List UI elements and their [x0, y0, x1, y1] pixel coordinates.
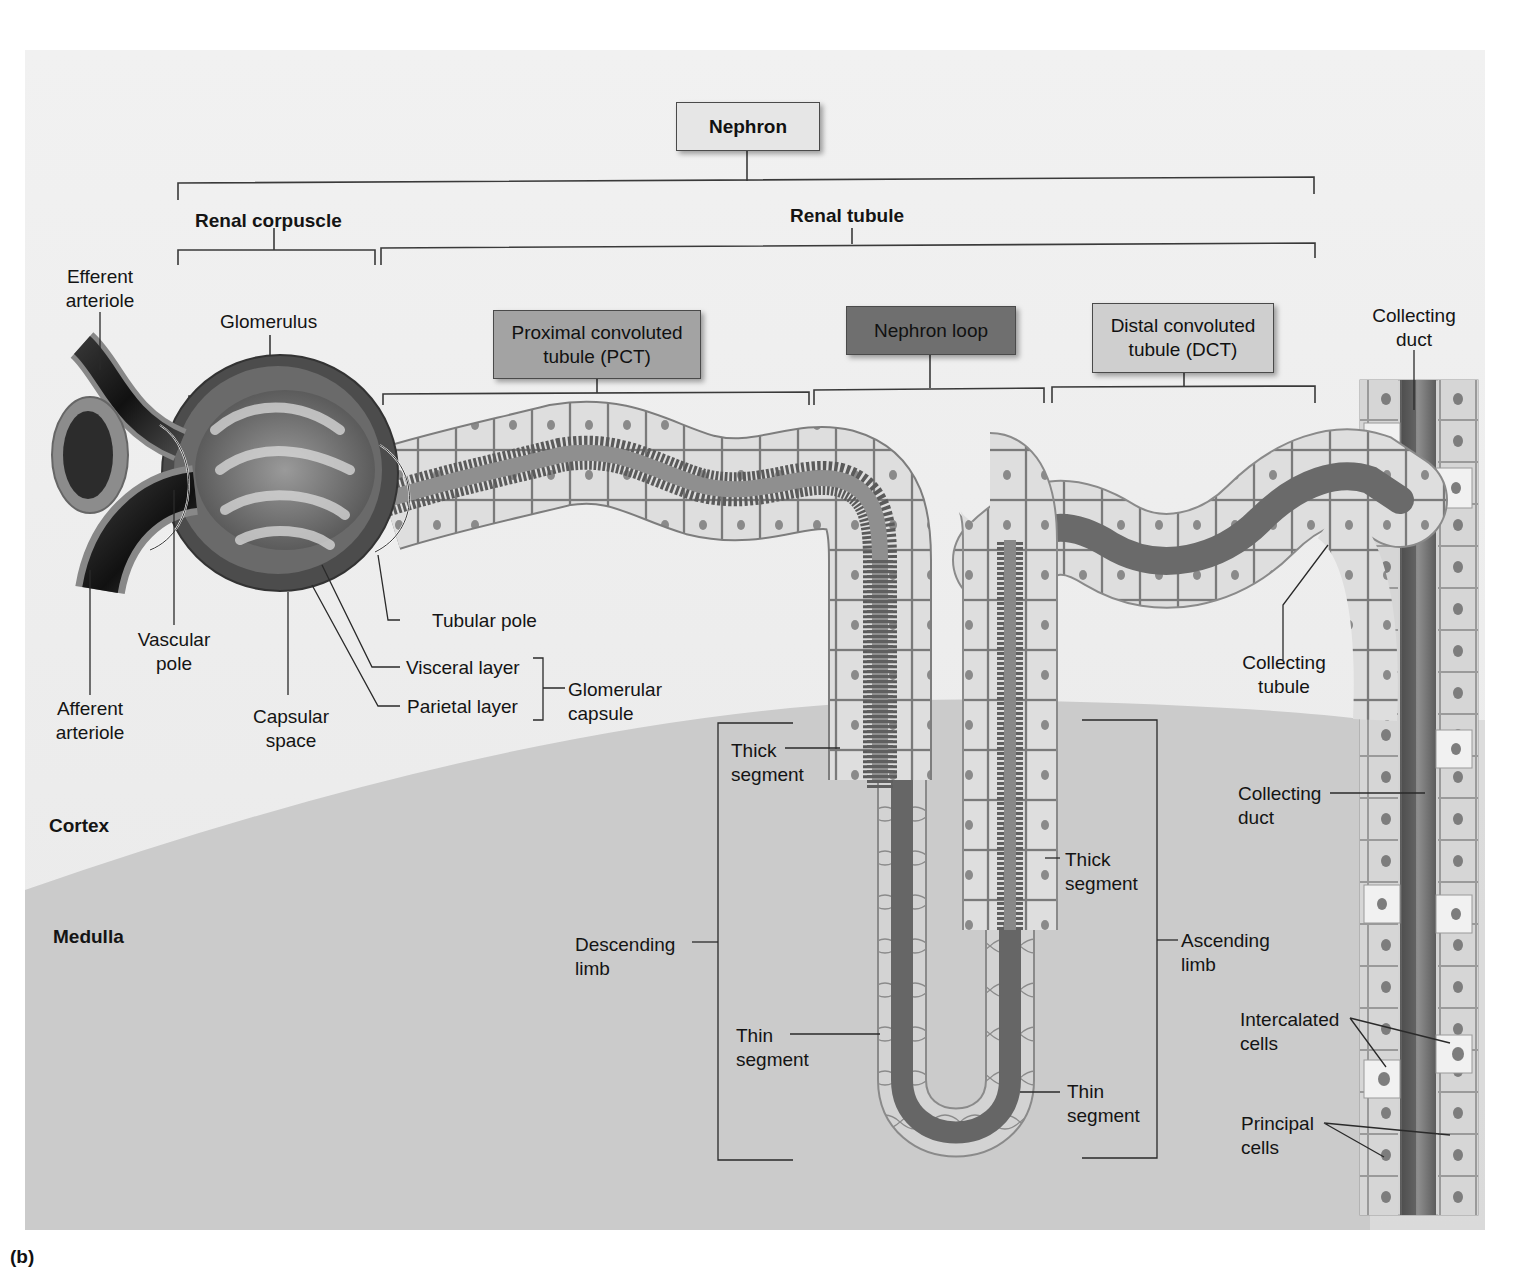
- thick-segment-ascending-label: Thick segment: [1065, 848, 1138, 896]
- visceral-layer-label: Visceral layer: [406, 656, 520, 680]
- pct-label-line1: Proximal convoluted: [511, 321, 682, 345]
- collecting-duct-mid-label: Collecting duct: [1238, 782, 1321, 830]
- pct-box: Proximal convoluted tubule (PCT): [493, 310, 701, 379]
- glomerular-capsule-label: Glomerular capsule: [568, 678, 662, 726]
- thin-segment-descending-label: Thin segment: [736, 1024, 809, 1072]
- ascending-limb-label: Ascending limb: [1181, 929, 1270, 977]
- tubular-pole-label: Tubular pole: [432, 609, 537, 633]
- collecting-duct-top-label: Collecting duct: [1362, 304, 1466, 352]
- pct-label-line2: tubule (PCT): [511, 345, 682, 369]
- principal-cells-label: Principal cells: [1241, 1112, 1314, 1160]
- dct-label-line2: tubule (DCT): [1111, 338, 1256, 362]
- renal-tubule-label: Renal tubule: [790, 204, 904, 228]
- afferent-arteriole-label: Afferent arteriole: [48, 697, 132, 745]
- renal-corpuscle-illustration: [52, 345, 409, 591]
- collecting-tubule-label: Collecting tubule: [1232, 651, 1336, 699]
- renal-corpuscle-label: Renal corpuscle: [195, 209, 342, 233]
- panel-letter: (b): [10, 1246, 34, 1268]
- glomerulus-label: Glomerulus: [220, 310, 317, 334]
- nephron-diagram: [0, 0, 1529, 1275]
- dct-label-line1: Distal convoluted: [1111, 314, 1256, 338]
- dct-box: Distal convoluted tubule (DCT): [1092, 303, 1274, 373]
- capsular-space-label: Capsular space: [244, 705, 338, 753]
- nephron-loop-box: Nephron loop: [846, 306, 1016, 355]
- medulla-label: Medulla: [53, 925, 124, 949]
- parietal-layer-label: Parietal layer: [407, 695, 518, 719]
- thin-segment-ascending-label: Thin segment: [1067, 1080, 1140, 1128]
- cortex-label: Cortex: [49, 814, 109, 838]
- nephron-label: Nephron: [709, 115, 787, 139]
- descending-limb-label: Descending limb: [575, 933, 675, 981]
- nephron-loop-label: Nephron loop: [874, 319, 988, 343]
- nephron-box: Nephron: [676, 102, 820, 151]
- vascular-pole-label: Vascular pole: [130, 628, 218, 676]
- efferent-arteriole-label: Efferent arteriole: [60, 265, 140, 313]
- thick-segment-descending-label: Thick segment: [731, 739, 804, 787]
- intercalated-cells-label: Intercalated cells: [1240, 1008, 1339, 1056]
